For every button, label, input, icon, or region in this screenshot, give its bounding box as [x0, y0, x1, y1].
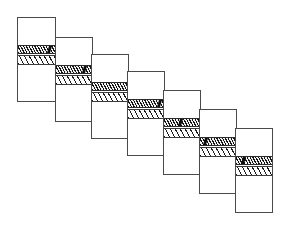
panel-5-light-hatch-band — [164, 128, 200, 138]
panel-5-notch-mark — [178, 119, 183, 126]
panel-7-light-hatch-band — [236, 166, 272, 176]
panel-2-notch-mark — [82, 66, 87, 73]
panel-7-notch-mark — [241, 157, 246, 164]
panel-7-dark-hatch-band — [236, 156, 272, 165]
panel-6-dark-hatch-band — [200, 137, 236, 146]
panel-4 — [127, 71, 165, 156]
panel-2-light-hatch-band — [56, 75, 92, 85]
panel-1-dark-hatch-band — [18, 45, 55, 54]
panel-6-notch-mark — [203, 138, 208, 145]
panel-2-dark-hatch-band — [56, 65, 92, 74]
panel-4-dark-hatch-band — [128, 99, 164, 108]
panel-7 — [235, 128, 273, 213]
panel-3-light-hatch-band — [92, 92, 128, 102]
panel-3-dark-hatch-band — [92, 82, 128, 91]
panel-1-notch-mark — [47, 46, 52, 53]
panel-2 — [55, 37, 93, 122]
panel-4-light-hatch-band — [128, 109, 164, 119]
panel-6 — [199, 109, 237, 194]
panel-5-dark-hatch-band — [164, 118, 200, 127]
cascading-panels-figure — [0, 0, 283, 226]
panel-4-notch-mark — [157, 100, 162, 107]
panel-5 — [163, 90, 201, 175]
panel-6-light-hatch-band — [200, 147, 236, 157]
panel-3 — [91, 54, 129, 139]
panel-1 — [17, 17, 56, 102]
panel-1-light-hatch-band — [18, 55, 55, 65]
